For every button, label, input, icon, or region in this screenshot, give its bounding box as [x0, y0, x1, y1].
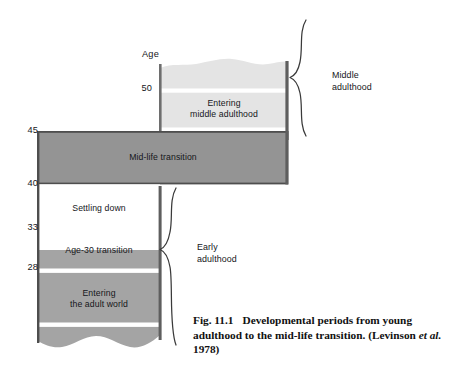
- figure-caption: Fig. 11.1Developmental periods from youn…: [193, 313, 461, 357]
- caption-source-close: 1978): [193, 343, 219, 355]
- caption-source-open: (Levinson: [368, 329, 419, 341]
- axis-title-age: Age: [142, 49, 159, 59]
- axis-tick-50: 50: [128, 83, 152, 93]
- brace-label-early-adulthood: Early adulthood: [197, 242, 237, 265]
- caption-figure-number: Fig. 11.1: [193, 314, 233, 326]
- top-block-left-rule: [159, 64, 162, 140]
- early-adulthood-bands-shape: [38, 186, 160, 348]
- bottom-block-right-rule: [159, 186, 162, 340]
- top-block-right-rule: [285, 61, 288, 140]
- brace-early-adulthood: [160, 188, 176, 345]
- axis-tick-28: 28: [14, 262, 38, 272]
- axis-tick-45: 45: [14, 125, 38, 135]
- brace-label-middle-adulthood: Middle adulthood: [332, 70, 372, 93]
- band-entering-middle-adulthood-shape: [160, 55, 288, 140]
- axis-tick-40: 40: [14, 178, 38, 188]
- axis-tick-33: 33: [14, 222, 38, 232]
- bottom-block-left-rule: [37, 131, 39, 343]
- band-mid-life-transition-shape: [38, 131, 289, 189]
- brace-middle-adulthood: [290, 20, 306, 136]
- caption-source-etal: et al.: [419, 329, 442, 341]
- figure-container: Age 50 45 40 33 28 Entering middle adult…: [0, 0, 467, 376]
